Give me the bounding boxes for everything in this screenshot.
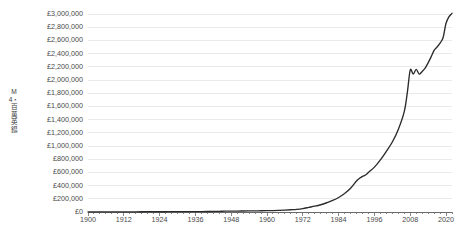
x-axis-tick-label: 1948 (223, 216, 239, 224)
x-axis-tick-label: 1912 (116, 216, 132, 224)
x-axis-tick-labels: 1900191219241936194819601972198419962008… (0, 216, 470, 230)
y-axis-tick-label: £3,000,000 (0, 10, 86, 17)
y-axis-tick-label: £1,400,000 (0, 116, 86, 123)
y-axis-tick-label: £2,600,000 (0, 37, 86, 44)
y-axis-tick-label: £1,000,000 (0, 142, 86, 149)
x-axis-tick-label: 2008 (402, 216, 418, 224)
plot-svg (88, 14, 452, 212)
y-axis-tick-label: £2,400,000 (0, 50, 86, 57)
y-axis-tick-label: £1,200,000 (0, 129, 86, 136)
x-axis-tick-label: 1900 (80, 216, 96, 224)
data-line-m4 (88, 13, 452, 212)
y-axis-tick-label: £1,800,000 (0, 90, 86, 97)
gridlines (88, 14, 452, 199)
x-axis-tick-label: 1924 (152, 216, 168, 224)
y-axis-tick-label: £400,000 (0, 182, 86, 189)
x-axis-tick-label: 1936 (187, 216, 203, 224)
y-axis-tick-labels: £0£200,000£400,000£600,000£800,000£1,000… (0, 0, 86, 235)
y-axis-tick-label: £2,000,000 (0, 76, 86, 83)
x-axis-tick-label: 1972 (295, 216, 311, 224)
y-axis-tick-label: £600,000 (0, 169, 86, 176)
y-axis-tick-label: £2,800,000 (0, 24, 86, 31)
y-axis-tick-label: £2,200,000 (0, 63, 86, 70)
x-axis-tick-label: 1984 (331, 216, 347, 224)
x-axis-tick-label: 1960 (259, 216, 275, 224)
chart-container: M4・百萬英鎉 £0£200,000£400,000£600,000£800,0… (0, 0, 470, 235)
plot-area (88, 14, 452, 212)
y-axis-tick-label: £200,000 (0, 195, 86, 202)
y-axis-tick-label: £800,000 (0, 156, 86, 163)
x-axis-tick-label: 1996 (366, 216, 382, 224)
x-axis-tick-label: 2020 (438, 216, 454, 224)
y-axis-tick-label: £1,600,000 (0, 103, 86, 110)
y-axis-tick-label: £0 (0, 208, 86, 215)
